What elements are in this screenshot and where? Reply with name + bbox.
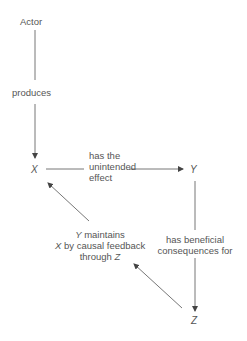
edge-label-causal-feedback: Y maintains X by causal feedback through… [55,229,145,262]
edge-label-line: Y maintains [55,229,145,240]
edge-z-x-line-lower [134,264,182,308]
text: maintains [82,229,125,240]
var-z: Z [115,251,121,262]
edge-label-line: consequences for [153,245,237,256]
edge-label-beneficial-consequences: has beneficial consequences for [153,234,237,256]
edge-label-line: X by causal feedback [55,240,145,251]
text: by causal feedback [61,240,145,251]
edge-label-unintended-effect: has the unintended effect [89,150,136,183]
text: through [80,251,115,262]
edge-label-produces: produces [12,87,51,98]
node-actor: Actor [20,16,42,27]
edge-label-line: unintended [89,161,136,172]
node-x: X [31,164,38,175]
edge-label-line: has the [89,150,136,161]
edge-label-line: effect [89,172,136,183]
edge-label-line: through Z [55,251,145,262]
edge-z-x-line-upper [48,183,89,221]
node-z: Z [191,315,197,326]
node-y: Y [190,164,197,175]
edge-label-line: has beneficial [153,234,237,245]
